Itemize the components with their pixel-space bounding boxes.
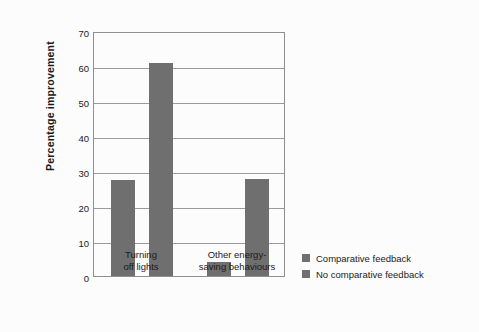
- x-axis-group-label-1: Other energy- saving behaviours: [189, 249, 285, 272]
- legend-swatch-0: [302, 254, 310, 262]
- legend-swatch-1: [302, 270, 310, 278]
- bar-g0-s1: [149, 63, 173, 277]
- y-tick-label-30: 30: [49, 168, 89, 179]
- gridline-40: [94, 138, 284, 139]
- gridline-60: [94, 68, 284, 69]
- gridline-30: [94, 173, 284, 174]
- legend-label-1: No comparative feedback: [316, 269, 424, 280]
- y-tick-label-60: 60: [49, 63, 89, 74]
- y-tick-label-50: 50: [49, 98, 89, 109]
- legend-item-1: No comparative feedback: [302, 267, 424, 281]
- y-tick-label-0: 0: [49, 273, 89, 284]
- y-tick-label-70: 70: [49, 28, 89, 39]
- y-tick-label-10: 10: [49, 238, 89, 249]
- x-axis-group-label-0: Turning off lights: [93, 249, 189, 272]
- chart-figure: Percentage improvement 010203040506070 C…: [0, 0, 479, 332]
- plot-area: 010203040506070: [93, 32, 285, 277]
- y-tick-label-20: 20: [49, 203, 89, 214]
- y-tick-label-40: 40: [49, 133, 89, 144]
- chart-legend: Comparative feedbackNo comparative feedb…: [302, 251, 424, 283]
- gridline-50: [94, 103, 284, 104]
- legend-item-0: Comparative feedback: [302, 251, 424, 265]
- legend-label-0: Comparative feedback: [316, 253, 411, 264]
